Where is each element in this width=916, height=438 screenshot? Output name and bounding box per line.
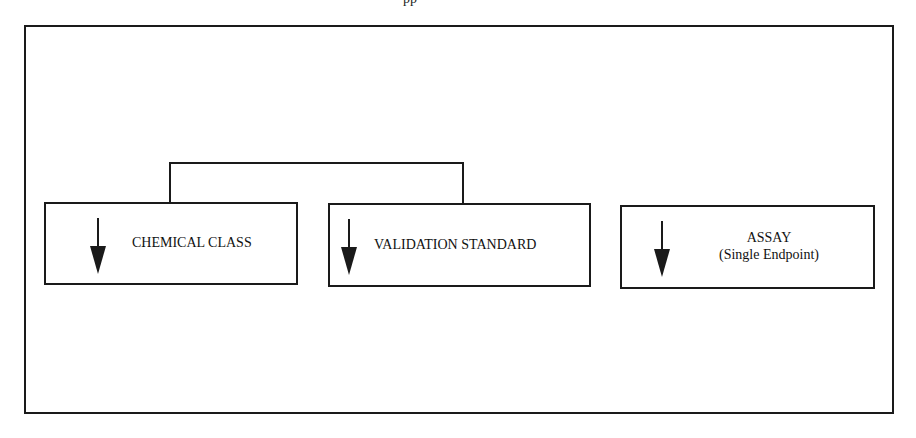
- node-label: ASSAY (Single Endpoint): [704, 229, 834, 263]
- bracket-connector: [169, 162, 464, 203]
- node-label: VALIDATION STANDARD: [374, 236, 536, 253]
- node-assay: ASSAY (Single Endpoint): [620, 205, 875, 289]
- arrow-down-icon: [88, 218, 108, 274]
- node-label: CHEMICAL CLASS: [132, 234, 252, 251]
- cut-off-heading-fragment: pp: [403, 0, 417, 7]
- arrow-down-icon: [652, 221, 672, 277]
- node-chemical-class: CHEMICAL CLASS: [44, 202, 298, 285]
- arrow-down-icon: [339, 219, 359, 275]
- node-validation-standard: VALIDATION STANDARD: [328, 203, 591, 287]
